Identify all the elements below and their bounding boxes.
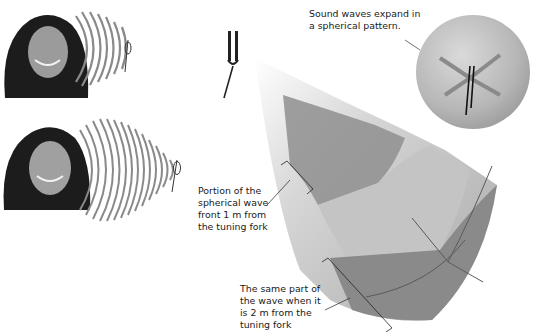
girl-panel-bottom: [4, 119, 181, 221]
sphere-caption-line-2: a spherical pattern.: [309, 20, 420, 32]
label-2m-line-2: the wave when it: [240, 295, 321, 307]
label-2m-line-3: is 2 m from the: [240, 307, 321, 319]
label-1m-line-2: spherical wave: [198, 197, 268, 209]
label-1m-line-1: Portion of the: [198, 185, 268, 197]
girl-panel-top: [4, 12, 131, 98]
label-2m-line-1: The same part of: [240, 283, 321, 295]
label-1m: Portion of the spherical wave front 1 m …: [198, 185, 268, 233]
sphere-caption-line-1: Sound waves expand in: [309, 8, 420, 20]
sphere-inset: [405, 15, 530, 129]
tuning-fork-icon: [224, 31, 238, 98]
label-1m-line-4: the tuning fork: [198, 221, 268, 233]
label-2m-line-4: tuning fork: [240, 319, 321, 331]
label-2m: The same part of the wave when it is 2 m…: [240, 283, 321, 331]
label-1m-line-3: front 1 m from: [198, 209, 268, 221]
sphere-caption: Sound waves expand in a spherical patter…: [309, 8, 420, 32]
tuning-fork-small-bottom: [172, 160, 181, 192]
sound-rings-bottom: [80, 119, 173, 221]
